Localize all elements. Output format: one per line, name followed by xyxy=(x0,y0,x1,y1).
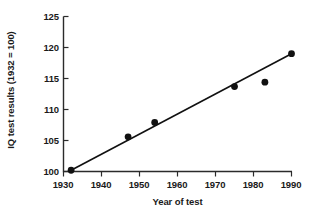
data-point xyxy=(125,133,132,140)
x-tick-label-1990: 1990 xyxy=(281,179,302,190)
x-tick-label-1940: 1940 xyxy=(91,179,112,190)
y-tick-label-115: 115 xyxy=(44,73,60,84)
plot-area: 100 105 110 115 120 125 1930 1940 1950 1… xyxy=(0,0,312,217)
y-tick-label-125: 125 xyxy=(43,11,59,22)
data-point xyxy=(231,83,238,90)
chart-figure: IQ test results (1932 = 100) Year of tes… xyxy=(0,0,312,217)
data-point xyxy=(68,167,75,174)
y-axis-tick-labels: 100 105 110 115 120 125 xyxy=(43,11,59,177)
y-tick-label-110: 110 xyxy=(44,104,59,115)
axis-lines xyxy=(64,17,293,172)
y-axis-ticks xyxy=(64,17,69,172)
x-axis-ticks xyxy=(64,172,292,177)
x-tick-label-1980: 1980 xyxy=(243,179,264,190)
data-point xyxy=(151,119,158,126)
x-tick-label-1960: 1960 xyxy=(167,179,188,190)
y-tick-label-100: 100 xyxy=(43,166,59,177)
x-tick-label-1970: 1970 xyxy=(205,179,226,190)
data-point xyxy=(288,50,295,57)
data-point xyxy=(262,79,269,86)
x-tick-label-1950: 1950 xyxy=(129,179,150,190)
y-tick-label-105: 105 xyxy=(43,135,59,146)
trend-line xyxy=(71,54,291,171)
y-tick-label-120: 120 xyxy=(43,42,59,53)
x-axis-tick-labels: 1930 1940 1950 1960 1970 1980 1990 xyxy=(53,179,302,190)
x-tick-label-1930: 1930 xyxy=(53,179,74,190)
